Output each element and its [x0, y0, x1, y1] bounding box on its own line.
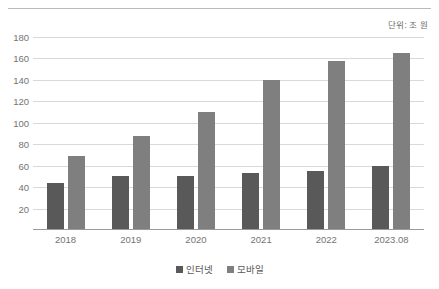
legend-label: 모바일 [237, 262, 264, 276]
x-axis-tick: 2020 [163, 234, 228, 250]
bar[interactable] [68, 156, 85, 230]
y-axis-tick: 180 [13, 32, 29, 43]
bar-group [229, 37, 294, 230]
x-axis-line [33, 229, 424, 230]
bar[interactable] [177, 176, 194, 230]
bar-group [98, 37, 163, 230]
legend-swatch-icon [176, 266, 183, 273]
x-axis-tick: 2018 [33, 234, 98, 250]
unit-annotation: 단위: 조 원 [388, 18, 428, 30]
plot-area [33, 37, 424, 230]
bar[interactable] [372, 166, 389, 230]
x-axis-tick: 2023.08 [359, 234, 424, 250]
x-axis-tick: 2019 [98, 234, 163, 250]
y-axis-tick: 40 [18, 182, 29, 193]
chart-legend: 인터넷모바일 [0, 262, 439, 276]
legend-label: 인터넷 [186, 262, 213, 276]
x-axis-tick: 2022 [294, 234, 359, 250]
legend-item[interactable]: 인터넷 [176, 262, 213, 276]
x-axis-tick-labels: 201820192020202120222023.08 [33, 234, 424, 250]
y-axis-tick: 160 [13, 53, 29, 64]
bar[interactable] [393, 53, 410, 230]
legend-swatch-icon [227, 266, 234, 273]
bar[interactable] [307, 171, 324, 230]
bar[interactable] [328, 61, 345, 230]
bar[interactable] [263, 80, 280, 230]
bar-group [33, 37, 98, 230]
header-divider [8, 8, 431, 9]
y-axis-tick: 140 [13, 74, 29, 85]
bar[interactable] [198, 112, 215, 230]
bar[interactable] [133, 136, 150, 230]
bar-group [294, 37, 359, 230]
bar-group [359, 37, 424, 230]
bar[interactable] [47, 183, 64, 230]
bar-groups [33, 37, 424, 230]
bar-group [163, 37, 228, 230]
y-axis-tick-labels: 18016014012010080604020 [0, 37, 29, 230]
y-axis-tick: 60 [18, 160, 29, 171]
y-axis-tick: 80 [18, 139, 29, 150]
bar[interactable] [242, 173, 259, 230]
y-axis-tick: 100 [13, 117, 29, 128]
y-axis-tick: 120 [13, 96, 29, 107]
bar-chart: 단위: 조 원 18016014012010080604020 20182019… [0, 0, 439, 289]
y-axis-tick: 20 [18, 203, 29, 214]
legend-item[interactable]: 모바일 [227, 262, 264, 276]
bar[interactable] [112, 176, 129, 230]
x-axis-tick: 2021 [229, 234, 294, 250]
